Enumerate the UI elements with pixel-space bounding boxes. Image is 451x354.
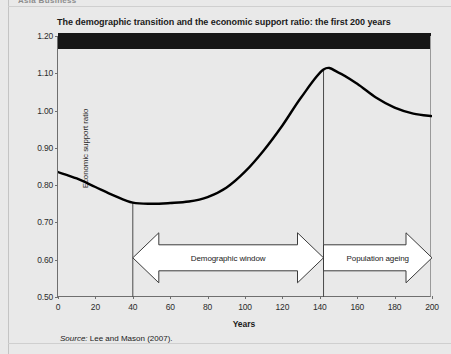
x-tick-label: 100	[238, 302, 252, 312]
source-text: Lee and Mason (2007).	[88, 334, 173, 343]
x-tick-label: 200	[425, 302, 439, 312]
y-tick-label: 1.10	[37, 68, 53, 78]
x-tick-label: 140	[313, 302, 327, 312]
x-tick-label: 180	[388, 302, 402, 312]
y-tick-label: 0.80	[37, 180, 53, 190]
x-tick-label: 120	[276, 302, 290, 312]
page-border-top	[8, 6, 451, 7]
source-note: Source: Lee and Mason (2007).	[60, 334, 173, 343]
running-head: Asia Business	[18, 0, 77, 5]
source-label: Source:	[60, 334, 88, 343]
x-tick-label: 40	[128, 302, 137, 312]
x-tick-label: 0	[56, 302, 61, 312]
x-tick-label: 160	[350, 302, 364, 312]
x-tick-label: 60	[166, 302, 175, 312]
x-tick-label: 80	[203, 302, 212, 312]
page-border-bottom	[8, 343, 451, 344]
population-ageing-label: Population ageing	[347, 253, 409, 262]
support-ratio-line	[58, 68, 432, 204]
y-tick-label: 1.00	[37, 106, 53, 116]
x-axis-title: Years	[57, 319, 431, 329]
plot-area: Economic support ratio 0.500.600.700.800…	[57, 36, 431, 297]
y-tick-label: 0.60	[37, 255, 53, 265]
x-tick-label: 20	[91, 302, 100, 312]
demographic-window-label: Demographic window	[191, 253, 266, 262]
y-tick-label: 0.90	[37, 143, 53, 153]
figure-page: Asia Business The demographic transition…	[0, 0, 451, 354]
figure-title: The demographic transition and the econo…	[57, 17, 391, 27]
y-tick-label: 0.70	[37, 217, 53, 227]
y-tick-label: 0.50	[37, 292, 53, 302]
page-border-left	[8, 0, 9, 354]
y-tick-label: 1.20	[37, 31, 53, 41]
x-tick-mark	[432, 296, 433, 299]
